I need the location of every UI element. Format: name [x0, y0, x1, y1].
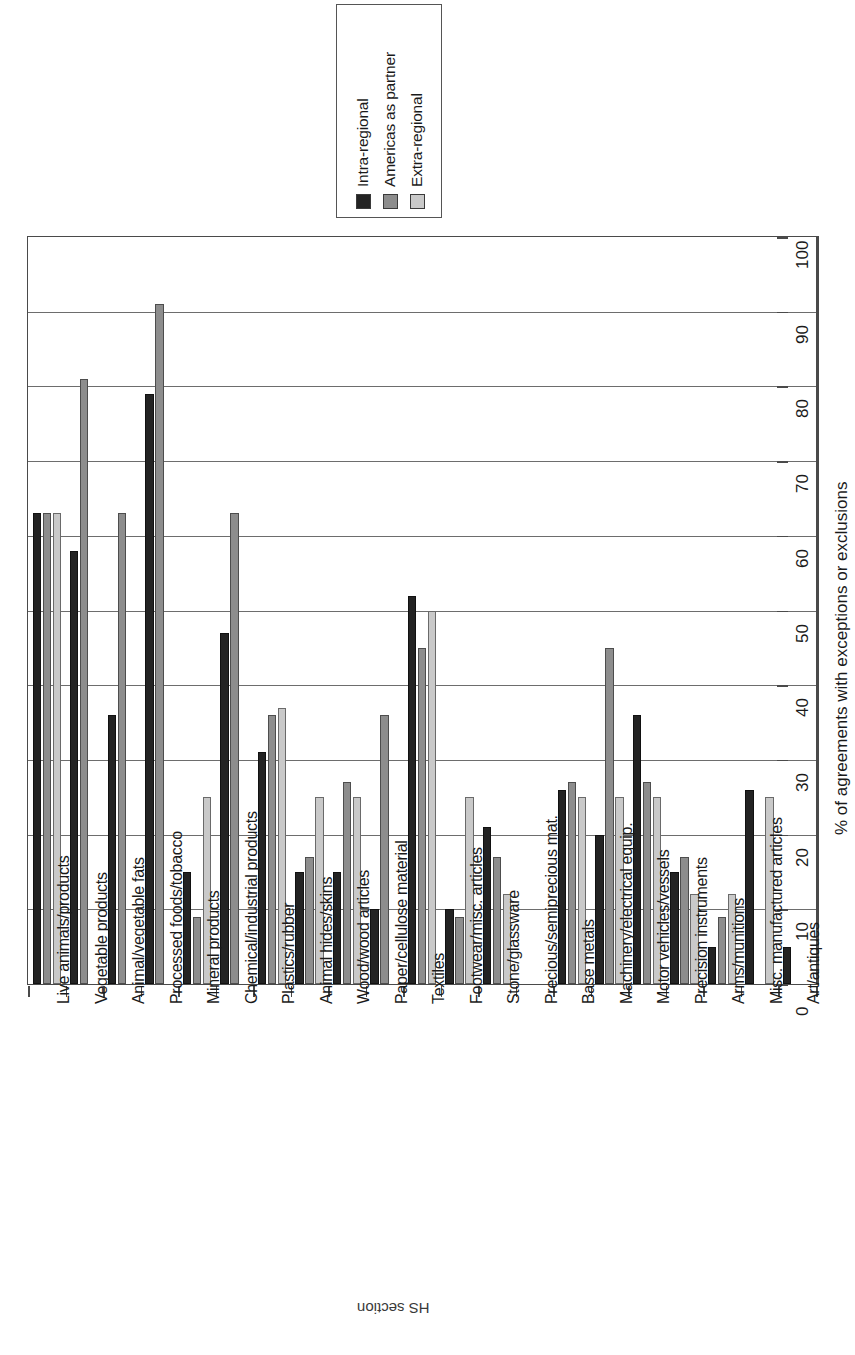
- bar: [230, 513, 238, 984]
- bar: [155, 304, 163, 984]
- bar-group: [291, 237, 329, 984]
- legend-swatch-intra-regional: [356, 194, 371, 209]
- bar: [643, 782, 651, 984]
- bar: [605, 648, 613, 984]
- category-axis-title: HS section: [357, 1300, 430, 1317]
- bar: [718, 917, 726, 984]
- value-axis-line: [817, 236, 819, 985]
- category-label: Plastics/rubber: [280, 903, 298, 1004]
- value-tick-label-20: 20: [793, 827, 813, 867]
- bar: [305, 857, 313, 984]
- category-label: Precision instruments: [693, 857, 711, 1004]
- value-tick-30: [777, 760, 788, 762]
- category-label: Textiles: [430, 953, 448, 1004]
- legend-label-americas-as-partner: Americas as partner: [381, 52, 399, 187]
- legend-label-intra-regional: Intra-regional: [354, 98, 372, 187]
- legend-item-intra-regional: Intra-regional: [354, 5, 372, 209]
- category-label: Arms/munitions: [730, 898, 748, 1004]
- bar: [118, 513, 126, 984]
- value-tick-label-60: 60: [793, 528, 813, 568]
- legend-swatch-extra-regional: [410, 194, 425, 209]
- value-tick-label-40: 40: [793, 677, 813, 717]
- bar: [493, 857, 501, 984]
- value-tick-100: [777, 237, 788, 239]
- bar: [193, 917, 201, 984]
- value-tick-label-90: 90: [793, 304, 813, 344]
- bar: [380, 715, 388, 984]
- category-label: Precious/semiprecious mat.: [543, 815, 561, 1004]
- legend-item-americas-as-partner: Americas as partner: [381, 5, 399, 209]
- legend-swatch-americas-as-partner: [383, 194, 398, 209]
- category-label: Processed foods/tobacco: [168, 831, 186, 1004]
- category-label: Paper/cellulose material: [393, 840, 411, 1004]
- category-label: Chemical/industrial products: [243, 811, 261, 1004]
- category-label: Motor vehicles/vessels: [655, 850, 673, 1004]
- legend-items: Intra-regional Americas as partner Extra…: [337, 5, 443, 219]
- bar: [80, 379, 88, 984]
- value-tick-70: [777, 461, 788, 463]
- category-label: Mineral products: [205, 891, 223, 1004]
- value-tick-80: [777, 386, 788, 388]
- bar: [268, 715, 276, 984]
- value-tick-label-70: 70: [793, 453, 813, 493]
- category-label: Animal hides/skins: [318, 877, 336, 1004]
- category-label: Animal/vegetable fats: [130, 857, 148, 1004]
- category-label: Live animals/products: [55, 856, 73, 1004]
- value-tick-label-50: 50: [793, 603, 813, 643]
- category-label: Stone/glassware: [505, 890, 523, 1004]
- value-tick-40: [777, 685, 788, 687]
- bar: [43, 513, 51, 984]
- value-tick-90: [777, 312, 788, 314]
- chart-plot-area: 0102030405060708090100 Live animals/prod…: [0, 234, 782, 1034]
- value-axis-title: % of agreements with exceptions or exclu…: [832, 481, 852, 834]
- category-label: Misc. manufactured articles: [768, 817, 786, 1004]
- value-tick-label-100: 100: [793, 229, 813, 269]
- legend-item-extra-regional: Extra-regional: [408, 5, 426, 209]
- category-label: Machinery/electrical equip.: [618, 823, 636, 1004]
- category-label: Base metals: [580, 919, 598, 1004]
- value-tick-60: [777, 536, 788, 538]
- bar: [428, 611, 436, 985]
- chart-legend: Intra-regional Americas as partner Extra…: [336, 4, 442, 218]
- value-tick-50: [777, 611, 788, 613]
- category-tick: [28, 986, 30, 997]
- value-tick-label-30: 30: [793, 752, 813, 792]
- category-label: Art/antiques: [805, 922, 823, 1004]
- value-tick-label-80: 80: [793, 378, 813, 418]
- bar: [33, 513, 41, 984]
- category-label: Vegetable products: [93, 872, 111, 1004]
- bar: [568, 782, 576, 984]
- category-label: Footwear/misc. articles: [468, 847, 486, 1004]
- bar: [455, 917, 463, 984]
- bar: [343, 782, 351, 984]
- category-label: Wood/wood articles: [355, 870, 373, 1004]
- bar: [680, 857, 688, 984]
- bar: [418, 648, 426, 984]
- legend-label-extra-regional: Extra-regional: [408, 93, 426, 187]
